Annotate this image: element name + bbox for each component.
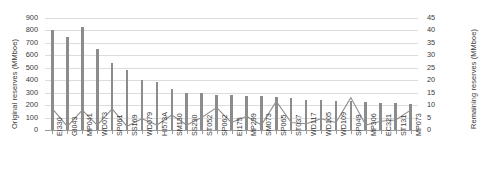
y-right-tick: 35	[427, 39, 451, 47]
y-right-tick: 10	[427, 101, 451, 109]
x-tickmark	[157, 130, 158, 134]
x-tickmark	[97, 130, 98, 134]
x-tickmark	[112, 130, 113, 134]
x-tickmark	[187, 130, 188, 134]
x-tickmark	[172, 130, 173, 134]
y-left-tick: 500	[14, 64, 38, 72]
x-axis-label: GI043	[70, 116, 79, 136]
x-tickmark	[202, 130, 203, 134]
x-axis-label: ST037	[294, 115, 303, 136]
x-tickmark	[276, 130, 277, 134]
y-left-tick: 700	[14, 39, 38, 47]
x-tickmark	[232, 130, 233, 134]
y-axis-right-title: Remaining reserves (MMboe)	[469, 29, 478, 129]
x-tickmark	[82, 130, 83, 134]
chart-legend: Original reserves Remaining reserves	[0, 167, 480, 181]
y-left-tick: 0	[14, 126, 38, 134]
x-tickmark	[411, 130, 412, 134]
y-left-tick: 100	[14, 114, 38, 122]
x-axis-label: SP049	[354, 114, 363, 136]
x-tickmark	[261, 130, 262, 134]
x-axis-label: SP065	[279, 114, 288, 136]
x-axis-label: MP299	[249, 113, 258, 136]
x-tickmark	[67, 130, 68, 134]
x-axis-label: MP306	[369, 113, 378, 136]
x-tickmark	[306, 130, 307, 134]
y-right-tick: 40	[427, 26, 451, 34]
y-left-tick: 300	[14, 89, 38, 97]
x-axis-label: WD073	[100, 112, 109, 136]
x-axis-label: WD079	[145, 112, 154, 136]
y-right-tick: 15	[427, 89, 451, 97]
y-right-tick: 30	[427, 51, 451, 59]
y-left-tick: 900	[14, 14, 38, 22]
x-tickmark	[246, 130, 247, 134]
y-right-tick: 25	[427, 64, 451, 72]
x-tickmark	[52, 130, 53, 134]
x-axis-label: MP073	[414, 113, 423, 136]
x-tickmark	[366, 130, 367, 134]
y-right-tick: 45	[427, 14, 451, 22]
x-axis-label: EC321	[384, 114, 393, 136]
x-axis-label: SS169	[130, 114, 139, 136]
x-tickmark	[381, 130, 382, 134]
x-axis-label: SM130	[175, 113, 184, 136]
x-tickmark	[396, 130, 397, 134]
x-axis-label: SM073	[264, 113, 273, 136]
y-right-tick: 0	[427, 126, 451, 134]
x-axis-label: HI573A	[160, 112, 169, 136]
x-axis-label: WD105	[324, 112, 333, 136]
x-axis-label: MP041	[85, 113, 94, 136]
x-axis-label: SP061	[115, 114, 124, 136]
x-tickmark	[351, 130, 352, 134]
x-tickmark	[127, 130, 128, 134]
y-left-tick: 800	[14, 26, 38, 34]
x-axis-label: EI175	[235, 117, 244, 136]
y-right-tick: 20	[427, 76, 451, 84]
x-tickmark	[142, 130, 143, 134]
y-left-tick: 600	[14, 51, 38, 59]
y-left-tick: 200	[14, 101, 38, 109]
x-axis-label: WD109	[339, 112, 348, 136]
x-axis-label: SP062	[220, 114, 229, 136]
x-tickmark	[336, 130, 337, 134]
reserves-chart: Original reserves (MMboe) Remaining rese…	[0, 0, 480, 194]
x-axis-label: WD117	[309, 113, 318, 136]
y-left-tick: 400	[14, 76, 38, 84]
x-axis-label: SS230	[190, 114, 199, 136]
x-tickmark	[291, 130, 292, 134]
x-axis-label: ST052	[205, 115, 214, 136]
x-tickmark	[321, 130, 322, 134]
y-right-tick: 5	[427, 114, 451, 122]
x-tickmark	[217, 130, 218, 134]
x-axis-label: ST131	[399, 115, 408, 136]
x-axis-label: EI330	[55, 117, 64, 136]
